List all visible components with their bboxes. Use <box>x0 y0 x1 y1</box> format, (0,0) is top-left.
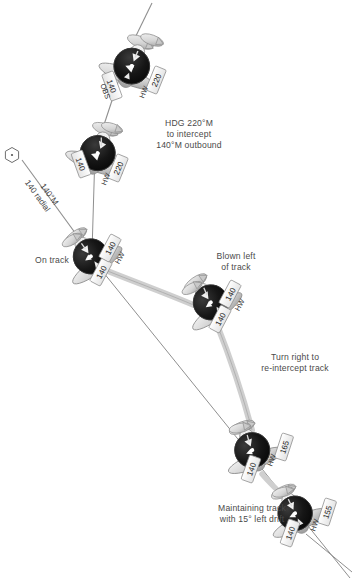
vor-station-symbol <box>5 148 18 163</box>
annotation-maintaining-track: Maintaining track with 15° left drift <box>198 503 306 525</box>
aircraft-3 <box>49 214 128 292</box>
track-line-continuation <box>306 534 352 572</box>
aircraft-2 <box>62 114 136 184</box>
flight-path-reintercept <box>216 322 252 430</box>
annotation-turn-right: Turn right to re-intercept track <box>243 352 347 374</box>
annotation-hdg-intercept: HDG 220°M to intercept 140°M outbound <box>130 118 248 152</box>
annotation-blown-left: Blown left of track <box>197 251 275 273</box>
navigation-diagram-svg: 140 OBS 220 HW 140 220 HW 140 140 HW 140… <box>0 0 357 586</box>
flight-path-drift-outline <box>100 268 196 306</box>
annotation-on-track: On track <box>22 255 82 266</box>
diagram-canvas: 140 OBS 220 HW 140 220 HW 140 140 HW 140… <box>0 0 357 586</box>
vor-radial-label: 140°M 140 radial <box>23 172 61 214</box>
